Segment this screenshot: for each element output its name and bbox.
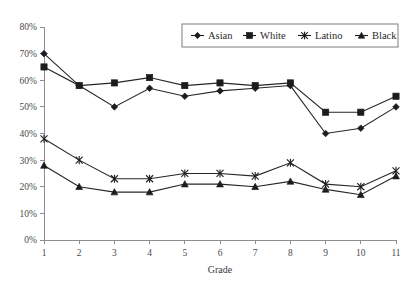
marker-square [147,74,153,80]
marker-diamond [111,104,118,111]
marker-diamond [393,104,400,111]
y-tick-label: 0% [24,235,37,245]
legend-label: Latino [315,30,342,41]
marker-diamond [217,88,224,95]
marker-square [287,80,293,86]
marker-square [247,33,253,39]
x-tick-label: 3 [112,248,117,258]
marker-square [323,109,329,115]
x-tick-label: 4 [147,248,152,258]
marker-triangle [287,178,294,184]
x-axis: 1234567891011 [42,240,401,258]
y-tick-label: 70% [20,49,38,59]
x-tick-label: 8 [288,248,293,258]
series-line [44,139,396,187]
marker-square [393,93,399,99]
legend-label: White [260,30,286,41]
x-tick-label: 6 [218,248,223,258]
x-tick-label: 1 [42,248,47,258]
y-axis: 0%10%20%30%40%50%60%70%80% [20,22,44,245]
legend-label: Black [372,30,397,41]
x-axis-title: Grade [208,264,233,275]
x-tick-label: 7 [253,248,258,258]
chart-canvas: 0%10%20%30%40%50%60%70%80% 1234567891011… [0,0,404,284]
marker-star [41,135,48,143]
marker-square [41,64,47,70]
x-tick-label: 10 [356,248,366,258]
marker-diamond [146,85,153,92]
y-tick-label: 80% [20,22,38,32]
x-tick-label: 2 [77,248,82,258]
y-tick-label: 60% [20,76,38,86]
marker-diamond [358,125,365,132]
marker-star [287,159,294,167]
series-black [41,162,400,197]
marker-triangle [76,183,83,189]
marker-star [76,156,83,164]
marker-square [111,80,117,86]
marker-diamond [182,93,189,100]
x-tick-label: 5 [182,248,187,258]
y-tick-label: 10% [20,209,38,219]
marker-square [76,82,82,88]
y-tick-label: 30% [20,156,38,166]
x-tick-label: 11 [391,248,400,258]
series-layer [41,50,400,197]
line-chart: 0%10%20%30%40%50%60%70%80% 1234567891011… [0,0,404,284]
x-tick-label: 9 [323,248,328,258]
y-tick-label: 20% [20,182,38,192]
legend-label: Asian [208,30,233,41]
marker-triangle [41,162,48,168]
y-tick-label: 50% [20,102,38,112]
marker-square [252,82,258,88]
marker-square [182,82,188,88]
marker-square [358,109,364,115]
marker-square [217,80,223,86]
chart-legend: AsianWhiteLatinoBlack [182,24,398,47]
y-tick-label: 40% [20,129,38,139]
series-asian [41,50,400,136]
